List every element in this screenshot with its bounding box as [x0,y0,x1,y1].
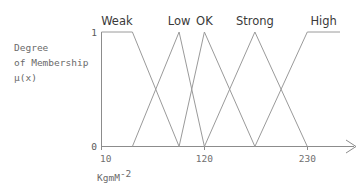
mf-curve-weak [102,32,180,147]
y-axis-caption-line-3: μ(x) [14,72,37,83]
x-axis-tick-label-120: 120 [196,153,213,164]
x-axis-tick-label-230: 230 [299,153,316,164]
y-axis-caption-line-2: of Membership [14,57,89,68]
x-axis-caption: KgmM-2 [97,168,131,183]
mf-curve-strong [204,32,307,147]
set-label-strong: Strong [236,14,274,28]
x-axis-caption-base: KgmM [97,172,120,183]
mf-curve-ok [179,32,255,147]
x-axis-tick-label-10: 10 [100,153,112,164]
tick-marks-group [102,147,308,151]
set-label-ok: OK [196,14,213,28]
chart-canvas: 1 0 10 120 230 Weak Low OK Strong High D… [0,0,362,196]
set-label-high: High [310,14,336,28]
y-axis-label-0: 0 [91,141,97,152]
mf-curve-low [132,32,204,147]
y-axis-caption-line-1: Degree [14,42,49,53]
set-label-low: Low [168,14,191,28]
mf-curve-high [255,32,340,147]
fuzzy-membership-chart: 1 0 10 120 230 Weak Low OK Strong High D… [0,0,362,196]
x-axis-caption-superscript: -2 [120,168,131,179]
y-axis-label-1: 1 [91,27,97,38]
membership-curves-group [102,32,341,147]
set-label-weak: Weak [101,14,133,28]
